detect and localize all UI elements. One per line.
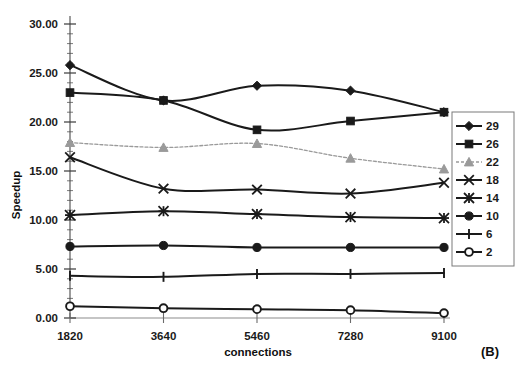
marker-circle <box>159 241 167 249</box>
y-tick-label: 10.00 <box>29 214 58 226</box>
marker-opencircle <box>465 248 473 256</box>
y-tick-label: 0.00 <box>36 312 58 324</box>
marker-triangle <box>65 138 74 147</box>
x-axis-tick-labels: 18203640546072809100 <box>57 330 457 342</box>
legend-label-14: 14 <box>486 192 499 204</box>
marker-square <box>465 140 473 148</box>
marker-asterisk <box>65 210 75 220</box>
y-tick-label: 20.00 <box>29 116 58 128</box>
marker-opencircle <box>66 302 74 310</box>
series-29 <box>65 61 448 117</box>
legend-label-22: 22 <box>486 156 499 168</box>
legend: 29262218141062 <box>452 112 514 266</box>
data-series-layer <box>65 61 449 317</box>
marker-square <box>160 97 168 105</box>
line-chart-canvas: 0.005.0010.0015.0020.0025.0030.00 182036… <box>0 0 518 377</box>
panel-label: (B) <box>481 344 499 359</box>
x-tick-label: 3640 <box>151 330 177 342</box>
marker-circle <box>440 243 448 251</box>
marker-asterisk <box>464 193 474 203</box>
chart-figure: 0.005.0010.0015.0020.0025.0030.00 182036… <box>0 0 518 377</box>
marker-asterisk <box>346 212 356 222</box>
marker-circle <box>66 242 74 250</box>
series-18 <box>65 152 449 198</box>
marker-asterisk <box>159 206 169 216</box>
marker-square <box>66 89 74 97</box>
marker-circle <box>346 243 354 251</box>
y-tick-label: 30.00 <box>29 18 58 30</box>
y-axis-tick-labels: 0.005.0010.0015.0020.0025.0030.00 <box>29 18 58 324</box>
y-tick-label: 5.00 <box>36 263 58 275</box>
y-tick-label: 25.00 <box>29 67 58 79</box>
legend-label-6: 6 <box>486 228 492 240</box>
marker-circle <box>465 212 473 220</box>
series-22 <box>65 138 448 173</box>
marker-diamond <box>65 61 74 70</box>
legend-label-2: 2 <box>486 246 492 258</box>
x-axis-title: connections <box>224 346 292 358</box>
y-tick-label: 15.00 <box>29 165 58 177</box>
legend-label-26: 26 <box>486 138 499 150</box>
marker-circle <box>253 243 261 251</box>
marker-opencircle <box>440 309 448 317</box>
marker-square <box>440 108 448 116</box>
axis-major-ticks <box>64 24 444 323</box>
marker-diamond <box>252 81 261 90</box>
x-tick-label: 7280 <box>338 330 364 342</box>
marker-asterisk <box>252 209 262 219</box>
legend-label-18: 18 <box>486 174 499 186</box>
marker-square <box>253 126 261 134</box>
legend-box <box>452 112 514 266</box>
marker-opencircle <box>253 305 261 313</box>
y-axis-title: Speedup <box>10 171 22 220</box>
marker-opencircle <box>347 306 355 314</box>
x-tick-label: 1820 <box>57 330 83 342</box>
x-tick-label: 9100 <box>431 330 457 342</box>
x-tick-label: 5460 <box>244 330 270 342</box>
series-26 <box>66 89 448 134</box>
legend-label-29: 29 <box>486 120 499 132</box>
marker-square <box>347 117 355 125</box>
marker-triangle <box>346 154 355 163</box>
marker-asterisk <box>439 213 449 223</box>
series-14 <box>65 206 449 223</box>
series-10 <box>66 241 448 251</box>
series-6 <box>70 268 444 282</box>
marker-diamond <box>346 86 355 95</box>
legend-label-10: 10 <box>486 210 499 222</box>
marker-opencircle <box>160 304 168 312</box>
